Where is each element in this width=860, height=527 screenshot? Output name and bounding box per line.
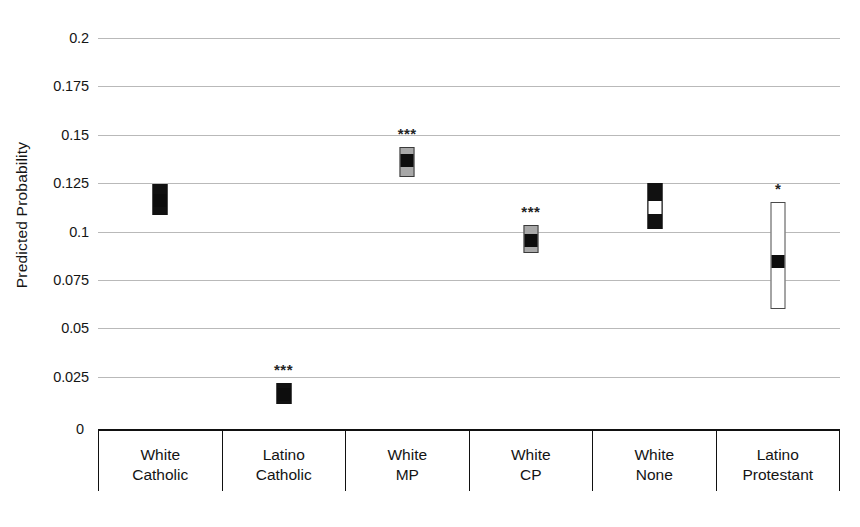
x-axis-category-label: Latino (757, 445, 799, 465)
x-axis-category-label: White (140, 445, 180, 465)
x-axis-category-label: White (387, 445, 427, 465)
x-axis-category-label: Latino (263, 445, 305, 465)
point-estimate-marker (277, 388, 290, 401)
y-axis-tick-label: 0.05 (61, 320, 89, 336)
point-estimate-marker (153, 194, 166, 207)
y-axis-tick-label: 0.1 (69, 224, 89, 240)
gridline (98, 135, 840, 136)
y-axis-title-text: Predicted Probability (13, 142, 31, 288)
gridline (98, 328, 840, 329)
x-axis-category-label: None (636, 465, 673, 485)
y-axis-title: Predicted Probability (2, 0, 42, 430)
x-axis-category-cell: WhiteCatholic (99, 431, 222, 491)
y-axis-tick-label: 0.2 (69, 30, 89, 46)
x-axis-category-label: White (634, 445, 674, 465)
gridline (98, 232, 840, 233)
gridline (98, 183, 840, 184)
x-axis-category-label: Protestant (742, 465, 813, 485)
point-estimate-marker (401, 154, 414, 167)
point-estimate-marker (648, 201, 661, 214)
x-axis-category-label: White (511, 445, 551, 465)
x-axis-category-boxes: WhiteCatholicLatinoCatholicWhiteMPWhiteC… (98, 429, 840, 491)
gridline (98, 38, 840, 39)
x-axis-category-cell: WhiteNone (592, 431, 716, 491)
significance-stars: *** (274, 362, 293, 377)
x-axis-category-cell: WhiteMP (345, 431, 469, 491)
y-axis-tick-label: 0.15 (61, 127, 89, 143)
x-axis-category-label: CP (520, 465, 542, 485)
x-axis-category-cell: LatinoProtestant (716, 431, 840, 491)
significance-stars: *** (398, 126, 417, 141)
y-axis-tick-label: 0.125 (53, 175, 89, 191)
gridline (98, 280, 840, 281)
x-axis-category-label: Catholic (132, 465, 188, 485)
point-estimate-marker (524, 234, 537, 247)
y-axis-tick-label: 0.075 (53, 272, 89, 288)
significance-stars: * (775, 181, 781, 196)
y-axis-tick-label-zero: 0 (76, 421, 84, 437)
y-axis-tick-label: 0.175 (53, 78, 89, 94)
significance-stars: *** (521, 204, 540, 219)
x-axis-category-label: MP (396, 465, 419, 485)
x-axis-category-cell: WhiteCP (469, 431, 593, 491)
x-axis-category-cell: LatinoCatholic (222, 431, 346, 491)
chart-figure: Predicted Probability 0.20.1750.150.1250… (0, 0, 860, 527)
x-axis-category-label: Catholic (256, 465, 312, 485)
point-estimate-marker (772, 255, 785, 268)
plot-area: 0.20.1750.150.1250.10.0750.050.025 *****… (98, 0, 840, 430)
gridline (98, 377, 840, 378)
gridline (98, 86, 840, 87)
y-axis-tick-label: 0.025 (53, 369, 89, 385)
